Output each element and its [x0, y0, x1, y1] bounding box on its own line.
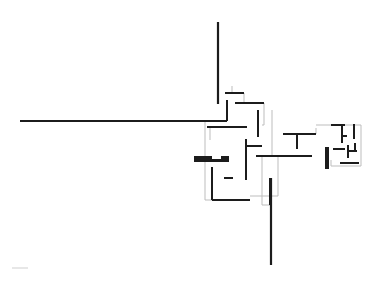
floor-plan-canvas — [0, 0, 378, 281]
floor-plan-drawing — [0, 0, 378, 281]
block-fireplace-west-bar — [194, 159, 229, 162]
block-fireplace-east — [325, 147, 329, 169]
plan-background — [0, 0, 378, 281]
